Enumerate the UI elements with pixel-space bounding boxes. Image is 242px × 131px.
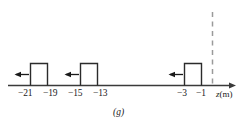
pulse-2-outline <box>81 64 98 86</box>
pulse-1-arrow-head <box>15 72 22 78</box>
tick-label-minus-21: −21 <box>18 88 32 98</box>
pulse-1-velocity-arrow-icon <box>15 72 30 78</box>
z-axis-label: z(m) <box>216 89 233 99</box>
pulse-1-outline <box>31 64 48 86</box>
pulse-3-velocity-arrow-icon <box>169 72 184 78</box>
pulse-2-velocity-arrow-icon <box>65 72 80 78</box>
z-axis-arrowhead-icon <box>229 82 236 88</box>
tick-label-minus-19: −19 <box>43 88 57 98</box>
pulse-3-outline <box>185 64 202 86</box>
tick-label-minus-15: −15 <box>68 88 82 98</box>
pulse-3-arrow-head <box>169 72 176 78</box>
z-axis-label-units: (m) <box>220 89 233 99</box>
pulse-2-arrow-head <box>65 72 72 78</box>
tick-label-minus-13: −13 <box>93 88 107 98</box>
panel-caption: (g) <box>113 107 124 117</box>
pulse-1 <box>15 64 48 86</box>
pulse-2 <box>65 64 98 86</box>
pulse-3 <box>169 64 202 86</box>
tick-label-minus-3: −3 <box>177 88 187 98</box>
figure-panel-g: −21 −19 −15 −13 −3 −1 z(m) (g) <box>0 0 242 131</box>
tick-label-minus-1: −1 <box>196 88 206 98</box>
